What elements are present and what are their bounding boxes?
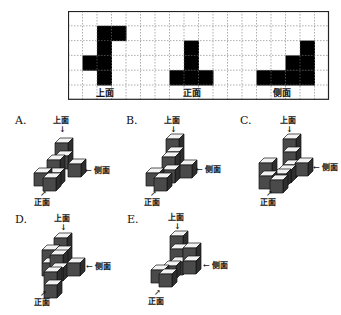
option-c-label[interactable]: C. (240, 115, 252, 127)
cube-figures (0, 0, 341, 315)
option-d-label[interactable]: D. (15, 214, 27, 226)
option-b-label[interactable]: B. (126, 115, 138, 127)
b-top-arrow-icon: ↓ (170, 125, 177, 134)
e-side-arrow-icon: ← (203, 261, 210, 270)
option-e-label[interactable]: E. (127, 214, 139, 226)
c-top-arrow-icon: ↓ (286, 125, 293, 134)
b-side-arrow-icon: ← (196, 165, 203, 174)
a-side-arrow-icon: ← (85, 166, 92, 175)
b-side-label: 侧面 (205, 165, 221, 174)
a-top-arrow-icon: ↓ (59, 125, 66, 134)
d-side-label: 侧面 (95, 262, 111, 271)
b-front-label: 正面 (144, 198, 160, 207)
d-top-arrow-icon: ↓ (60, 223, 67, 232)
d-side-arrow-icon: ← (86, 262, 93, 271)
e-top-arrow-icon: ↓ (174, 222, 181, 231)
e-front-label: 正面 (148, 297, 164, 306)
e-side-label: 侧面 (212, 261, 228, 270)
a-side-label: 侧面 (94, 166, 110, 175)
c-side-arrow-icon: ← (313, 163, 320, 172)
option-a-label[interactable]: A. (15, 115, 26, 127)
c-side-label: 侧面 (322, 163, 338, 172)
d-front-label: 正面 (34, 298, 50, 307)
c-front-label: 正面 (260, 198, 276, 207)
a-front-label: 正面 (34, 198, 50, 207)
